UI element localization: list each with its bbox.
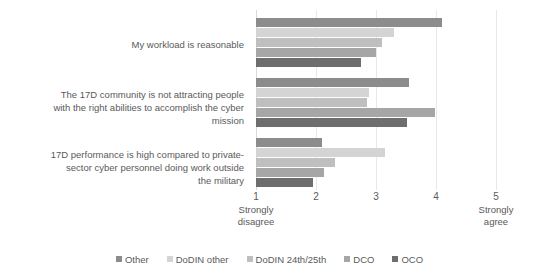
legend-swatch-icon — [116, 256, 122, 262]
x-tick-sublabel: disagree — [226, 216, 286, 228]
bar-row — [256, 168, 528, 177]
chart-legend: OtherDoDIN otherDoDIN 24th/25thDCOOCO — [0, 250, 539, 268]
legend-item-oco[interactable]: OCO — [392, 254, 423, 265]
bar-dco — [256, 168, 324, 177]
bar-row — [256, 38, 528, 47]
legend-label: DoDIN other — [176, 254, 229, 265]
category-label: 17D performance is high compared to priv… — [0, 148, 244, 187]
bar-group — [256, 138, 528, 188]
category-label: My workload is reasonable — [0, 38, 244, 51]
bar-row — [256, 178, 528, 187]
bar-dco — [256, 108, 435, 117]
bar-dodin-other — [256, 148, 385, 157]
bar-dodin-other — [256, 28, 394, 37]
category-label: The 17D community is not attracting peop… — [0, 88, 244, 127]
bar-group — [256, 78, 528, 128]
x-tick-2: 2 — [286, 190, 346, 204]
legend-item-dodin-24th-25th[interactable]: DoDIN 24th/25th — [247, 254, 327, 265]
bar-row — [256, 58, 528, 67]
bar-oco — [256, 58, 361, 67]
x-tick-value: 4 — [406, 190, 466, 204]
bar-row — [256, 88, 528, 97]
bar-other — [256, 18, 442, 27]
legend-item-dodin-other[interactable]: DoDIN other — [167, 254, 229, 265]
legend-label: DCO — [353, 254, 374, 265]
bar-group — [256, 18, 528, 68]
bar-row — [256, 158, 528, 167]
value-axis-labels: 1Stronglydisagree2345Stronglyagree — [256, 190, 528, 240]
bar-dodin-24th-25th — [256, 38, 382, 47]
x-tick-sublabel: Strongly — [226, 204, 286, 216]
category-axis-labels: My workload is reasonableThe 17D communi… — [0, 10, 250, 190]
x-tick-value: 3 — [346, 190, 406, 204]
legend-swatch-icon — [167, 256, 173, 262]
bar-chart: My workload is reasonableThe 17D communi… — [0, 0, 539, 280]
legend-swatch-icon — [392, 256, 398, 262]
x-tick-value: 1 — [226, 190, 286, 204]
x-tick-4: 4 — [406, 190, 466, 204]
x-tick-sublabel: Strongly — [466, 204, 526, 216]
bar-row — [256, 148, 528, 157]
x-tick-value: 2 — [286, 190, 346, 204]
plot-area — [256, 10, 528, 190]
bar-dco — [256, 48, 376, 57]
bar-other — [256, 78, 409, 87]
legend-label: OCO — [401, 254, 423, 265]
x-tick-sublabel: agree — [466, 216, 526, 228]
bar-row — [256, 78, 528, 87]
bar-row — [256, 48, 528, 57]
bar-row — [256, 108, 528, 117]
bar-row — [256, 28, 528, 37]
legend-swatch-icon — [247, 256, 253, 262]
legend-label: Other — [125, 254, 149, 265]
bar-row — [256, 118, 528, 127]
bar-row — [256, 138, 528, 147]
bar-dodin-24th-25th — [256, 158, 335, 167]
legend-item-dco[interactable]: DCO — [344, 254, 374, 265]
bar-oco — [256, 178, 313, 187]
legend-label: DoDIN 24th/25th — [256, 254, 327, 265]
x-tick-value: 5 — [466, 190, 526, 204]
x-tick-5: 5Stronglyagree — [466, 190, 526, 228]
x-tick-3: 3 — [346, 190, 406, 204]
bar-dodin-other — [256, 88, 369, 97]
legend-item-other[interactable]: Other — [116, 254, 149, 265]
bar-oco — [256, 118, 407, 127]
bar-row — [256, 98, 528, 107]
bar-dodin-24th-25th — [256, 98, 367, 107]
bar-row — [256, 18, 528, 27]
x-tick-1: 1Stronglydisagree — [226, 190, 286, 228]
legend-swatch-icon — [344, 256, 350, 262]
bar-other — [256, 138, 322, 147]
